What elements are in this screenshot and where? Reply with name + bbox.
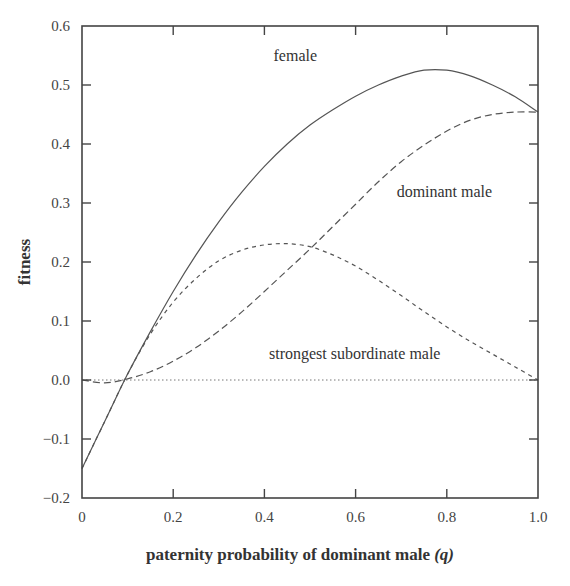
y-tick-label: 0.3 [51, 195, 70, 211]
plot-lines [82, 70, 538, 469]
series-labels: femaledominant malestrongest subordinate… [269, 47, 492, 363]
x-tick-label: 0 [78, 509, 86, 525]
x-tick-label: 0.6 [346, 509, 365, 525]
series-label-dominant-male: dominant male [397, 183, 493, 200]
x-tick-label: 0.8 [437, 509, 456, 525]
x-axis-title: paternity probability of dominant male (… [146, 545, 454, 564]
y-tick-label: 0.0 [51, 372, 70, 388]
series-line-dominant-male [82, 112, 538, 383]
y-tick-label: 0.1 [51, 313, 70, 329]
x-tick-label: 0.4 [255, 509, 274, 525]
fitness-chart: −0.2−0.10.00.10.20.30.40.50.6 00.20.40.6… [0, 0, 570, 586]
plot-frame [82, 26, 538, 498]
series-label-female: female [274, 47, 318, 64]
y-axis-ticks: −0.2−0.10.00.10.20.30.40.50.6 [43, 18, 538, 506]
x-axis-title-symbol: (q) [434, 545, 454, 564]
y-tick-label: 0.6 [51, 18, 70, 34]
y-tick-label: −0.2 [43, 490, 70, 506]
y-tick-label: 0.5 [51, 77, 70, 93]
y-tick-label: 0.2 [51, 254, 70, 270]
x-axis-ticks: 00.20.40.60.81.0 [78, 26, 547, 525]
series-line-female [82, 70, 538, 469]
x-tick-label: 0.2 [164, 509, 183, 525]
y-tick-label: 0.4 [51, 136, 70, 152]
x-axis-title-text: paternity probability of dominant male [146, 545, 430, 564]
y-tick-label: −0.1 [43, 431, 70, 447]
series-label-strongest-subordinate-male: strongest subordinate male [269, 345, 441, 363]
x-tick-label: 1.0 [529, 509, 548, 525]
y-axis-title: fitness [15, 238, 34, 285]
